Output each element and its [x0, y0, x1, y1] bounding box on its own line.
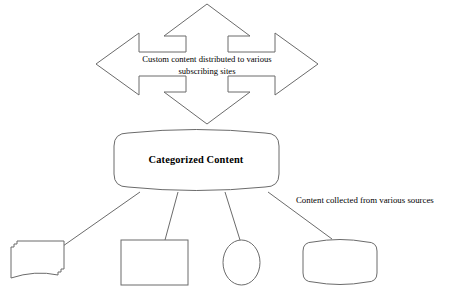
arrow-caption-line1: Custom content distributed to various — [142, 54, 272, 64]
categorized-content-label: Categorized Content — [149, 154, 244, 165]
ellipse-source — [223, 240, 260, 285]
rectangle-source — [121, 240, 188, 285]
arrow-caption-line2: subscribing sites — [178, 66, 236, 76]
diagram-svg: Custom content distributed to various su… — [0, 0, 463, 296]
diagram-canvas: Custom content distributed to various su… — [0, 0, 463, 296]
four-way-arrow — [96, 4, 318, 124]
connector-to-rectangle — [165, 192, 178, 240]
connector-to-ellipse — [225, 192, 240, 240]
drum-source — [303, 240, 377, 285]
connector-to-multi-document — [63, 192, 140, 246]
sources-caption: Content collected from various sources — [296, 195, 434, 205]
multi-document-source — [11, 241, 64, 278]
